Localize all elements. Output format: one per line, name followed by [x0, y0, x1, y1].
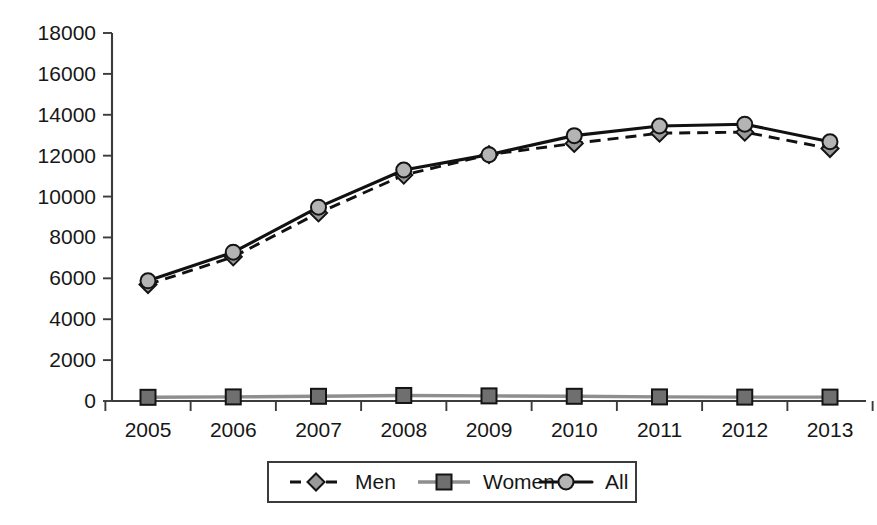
x-tick-label-2006: 2006: [210, 418, 257, 441]
x-tick-label-2005: 2005: [125, 418, 172, 441]
legend-circle-marker-icon: [559, 475, 574, 490]
data-point-women-2005[interactable]: [141, 390, 156, 405]
data-point-all-2006[interactable]: [226, 245, 241, 260]
data-point-women-2007[interactable]: [311, 389, 326, 404]
data-point-all-2010[interactable]: [567, 128, 582, 143]
y-axis-tick-labels: 0200040006000800010000120001400016000180…: [38, 21, 96, 412]
data-point-women-2013[interactable]: [823, 390, 838, 405]
x-tick-label-2008: 2008: [380, 418, 427, 441]
y-tick-label: 2000: [49, 348, 96, 371]
series-markers: [140, 117, 839, 405]
series-lines: [148, 124, 830, 397]
data-point-all-2011[interactable]: [652, 119, 667, 134]
data-point-all-2012[interactable]: [737, 117, 752, 132]
x-tick-label-2007: 2007: [295, 418, 342, 441]
y-tick-label: 14000: [38, 103, 96, 126]
data-point-all-2008[interactable]: [396, 162, 411, 177]
x-tick-label-2009: 2009: [466, 418, 513, 441]
x-tick-label-2012: 2012: [721, 418, 768, 441]
legend-label-all: All: [605, 470, 628, 493]
chart-canvas: 0200040006000800010000120001400016000180…: [0, 0, 877, 525]
y-tick-label: 18000: [38, 21, 96, 44]
y-tick-label: 10000: [38, 185, 96, 208]
legend-label-men: Men: [355, 470, 396, 493]
data-point-women-2012[interactable]: [737, 390, 752, 405]
data-point-women-2011[interactable]: [652, 389, 667, 404]
chart-legend[interactable]: MenWomenAll: [268, 462, 636, 502]
data-point-women-2008[interactable]: [396, 388, 411, 403]
legend-square-marker-icon: [437, 475, 452, 490]
x-tick-label-2010: 2010: [551, 418, 598, 441]
data-point-women-2006[interactable]: [226, 389, 241, 404]
y-axis-ticks: [103, 33, 112, 401]
y-tick-label: 12000: [38, 144, 96, 167]
data-point-all-2005[interactable]: [141, 273, 156, 288]
y-tick-label: 0: [84, 389, 96, 412]
y-tick-label: 6000: [49, 266, 96, 289]
data-point-women-2009[interactable]: [482, 388, 497, 403]
data-point-all-2007[interactable]: [311, 200, 326, 215]
line-chart: 0200040006000800010000120001400016000180…: [0, 0, 877, 525]
data-point-women-2010[interactable]: [567, 389, 582, 404]
y-tick-label: 8000: [49, 225, 96, 248]
data-point-all-2009[interactable]: [482, 147, 497, 162]
x-tick-label-2011: 2011: [637, 418, 682, 441]
data-point-all-2013[interactable]: [823, 134, 838, 149]
x-axis-tick-labels: 200520062007200820092010201120122013: [125, 418, 854, 441]
y-tick-label: 4000: [49, 307, 96, 330]
y-tick-label: 16000: [38, 62, 96, 85]
x-tick-label-2013: 2013: [807, 418, 854, 441]
